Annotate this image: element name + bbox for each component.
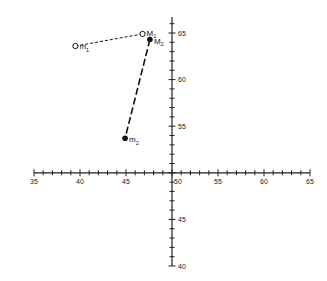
point-label-M2: M2 [154, 37, 164, 48]
x-tick-label: 55 [214, 178, 222, 185]
point-label-m2: m2 [129, 135, 139, 146]
point-m2-filled-marker [122, 136, 128, 142]
data-points: m1M1M2m2 [73, 29, 164, 146]
y-tick-label: 45 [178, 216, 186, 223]
x-tick-label: 50 [174, 178, 182, 185]
point-m1-open-marker [73, 43, 78, 48]
x-tick-label: 65 [306, 178, 314, 185]
connection-M2-m2 [125, 40, 150, 139]
y-tick-label: 60 [178, 76, 186, 83]
x-tick-label: 35 [30, 178, 38, 185]
x-tick-label: 60 [260, 178, 268, 185]
y-tick-label: 65 [178, 30, 186, 37]
point-M2-filled-marker [147, 37, 153, 43]
x-tick-label: 45 [122, 178, 130, 185]
diagram-canvas: 354045505560654045556065 m1M1M2m2 [0, 0, 327, 281]
point-M1-open-marker [140, 31, 145, 36]
y-tick-label: 55 [178, 123, 186, 130]
y-tick-label: 40 [178, 263, 186, 270]
x-tick-label: 40 [76, 178, 84, 185]
